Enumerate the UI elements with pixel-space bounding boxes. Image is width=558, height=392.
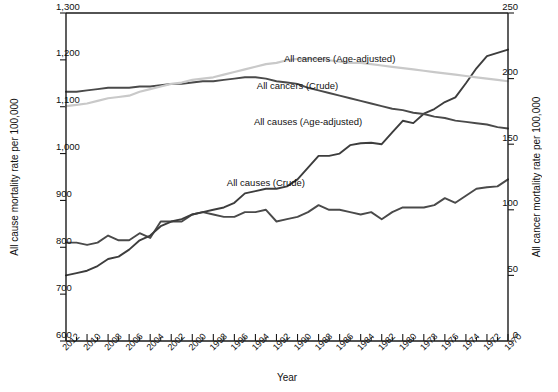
x-tick-label: 1976	[439, 331, 460, 352]
chart-svg: All causes (Crude)All causes (Age-adjust…	[0, 0, 558, 392]
x-tick-label: 2004	[145, 331, 166, 352]
x-tick-label: 2002	[166, 331, 187, 352]
x-tick-label: 1982	[376, 331, 397, 352]
right-tick-label: 1,000	[56, 141, 80, 152]
x-tick-label: 2010	[81, 331, 102, 352]
x-tick-label: 1998	[208, 331, 229, 352]
left-tick-label: 50	[507, 263, 518, 274]
x-tick-label: 2008	[102, 331, 123, 352]
x-tick-label: 1990	[292, 331, 313, 352]
series-label-2: All cancers (Crude)	[257, 80, 338, 91]
x-tick-label: 2000	[187, 331, 208, 352]
right-tick-label: 800	[56, 235, 72, 246]
x-axis-title: Year	[277, 372, 298, 383]
rotated-plot-container: All causes (Crude)All causes (Age-adjust…	[0, 0, 558, 392]
left-tick-label: 200	[502, 66, 518, 77]
right-tick-label: 700	[56, 282, 72, 293]
series-labels: All causes (Crude)All causes (Age-adjust…	[227, 53, 395, 189]
x-tick-label: 1974	[460, 331, 481, 352]
chart-figure: All causes (Crude)All causes (Age-adjust…	[0, 0, 558, 392]
right-tick-label: 1,200	[56, 47, 80, 58]
left-tick-label: 150	[502, 132, 518, 143]
series-label-0: All causes (Crude)	[227, 177, 305, 188]
axis-text: 1970197219741976197819801982198419861988…	[9, 1, 542, 384]
x-tick-label: 1988	[313, 331, 334, 352]
right-tick-label: 900	[56, 188, 72, 199]
x-tick-label: 1994	[250, 331, 271, 352]
x-tick-label: 1986	[334, 331, 355, 352]
right-tick-label: 1,300	[56, 1, 80, 12]
right-tick-label: 1,100	[56, 94, 80, 105]
x-tick-label: 1992	[271, 331, 292, 352]
series-label-1: All causes (Age-adjusted)	[254, 116, 362, 127]
x-tick-label: 1996	[229, 331, 250, 352]
right-tick-label: 600	[56, 329, 72, 340]
series-line-0	[66, 179, 508, 245]
left-tick-label: 100	[502, 197, 518, 208]
x-tick-label: 1972	[481, 331, 502, 352]
x-tick-label: 1980	[397, 331, 418, 352]
x-tick-label: 1984	[355, 331, 376, 352]
right-axis-title: All cause mortality rate per 100,000	[9, 98, 20, 256]
x-tick-label: 1978	[418, 331, 439, 352]
left-tick-label: 0	[513, 329, 518, 340]
x-tick-label: 2006	[123, 331, 144, 352]
left-tick-label: 250	[502, 1, 518, 12]
series-label-3: All cancers (Age-adjusted)	[284, 53, 395, 64]
left-axis-title: All cancer mortality rate per 100,000	[531, 96, 542, 257]
